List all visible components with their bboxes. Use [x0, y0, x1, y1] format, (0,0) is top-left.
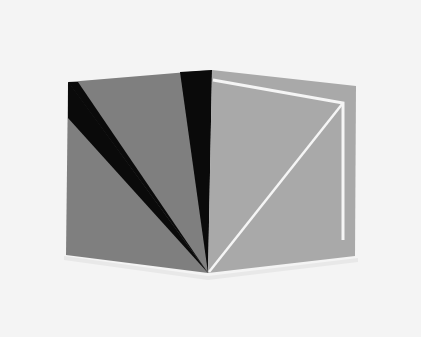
- geometric-artwork: [0, 0, 421, 337]
